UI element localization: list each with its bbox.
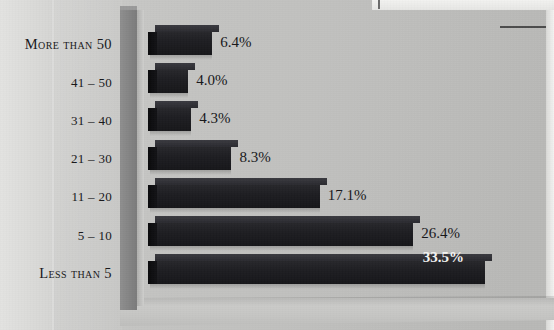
bar-value-label: 8.3% xyxy=(239,150,270,165)
bar-top-face xyxy=(155,140,238,147)
bar xyxy=(148,70,188,93)
bar xyxy=(148,108,191,131)
bar-top-face xyxy=(155,25,219,32)
bar-front-face xyxy=(148,223,413,246)
figure-page: More than 506.4%41 – 504.0%31 – 404.3%21… xyxy=(0,0,554,330)
bar-top-face xyxy=(155,178,327,185)
bar-chart-plot: More than 506.4%41 – 504.0%31 – 404.3%21… xyxy=(0,0,554,330)
bar-left-cap xyxy=(148,261,157,284)
bar-top-face xyxy=(155,63,195,70)
bar-value-label: 26.4% xyxy=(421,226,460,241)
bar-left-cap xyxy=(148,32,157,55)
category-label: 41 – 50 xyxy=(0,76,112,89)
category-label: 21 – 30 xyxy=(0,152,112,165)
bar-value-label: 4.0% xyxy=(196,73,227,88)
bar-left-cap xyxy=(148,147,157,170)
bar xyxy=(148,147,231,170)
bar-left-cap xyxy=(148,70,157,93)
bar-left-cap xyxy=(148,223,157,246)
bar-front-face xyxy=(148,147,231,170)
bar-value-label: 17.1% xyxy=(328,188,367,203)
category-label: 11 – 20 xyxy=(0,190,112,203)
bar xyxy=(148,185,320,208)
category-label: More than 50 xyxy=(0,38,112,51)
bar-left-cap xyxy=(148,108,157,131)
bar-value-label: 6.4% xyxy=(220,35,251,50)
bar xyxy=(148,223,413,246)
bar-front-face xyxy=(148,32,212,55)
category-label: Less than 5 xyxy=(0,267,112,280)
bar-value-label: 4.3% xyxy=(199,111,230,126)
bar-value-label: 33.5% xyxy=(423,250,464,265)
bar-top-face xyxy=(155,216,420,223)
bar-left-cap xyxy=(148,185,157,208)
bar xyxy=(148,32,212,55)
category-label: 5 – 10 xyxy=(0,229,112,242)
bar-front-face xyxy=(148,185,320,208)
category-label: 31 – 40 xyxy=(0,114,112,127)
bar-top-face xyxy=(155,101,198,108)
